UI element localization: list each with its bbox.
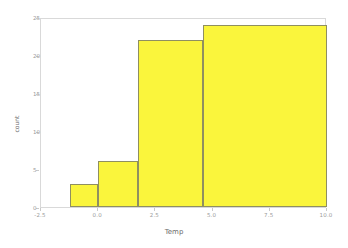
x-tick-mark — [97, 208, 98, 211]
y-axis-title: count — [13, 116, 20, 133]
x-axis-title: Temp — [0, 228, 348, 236]
x-tick-label: 0.0 — [93, 212, 102, 218]
y-tick-label: 15 — [33, 91, 40, 97]
y-tick-label: 0 — [33, 205, 37, 211]
y-tick-label: 25 — [33, 15, 40, 21]
y-tick-label: 10 — [33, 129, 40, 135]
histogram-bar — [98, 161, 138, 207]
x-tick-mark — [269, 208, 270, 211]
x-tick-label: 2.5 — [150, 212, 159, 218]
histogram-chart: -2.50.02.55.07.510.00510152025 Temp coun… — [0, 0, 348, 248]
x-tick-mark — [154, 208, 155, 211]
x-tick-label: -2.5 — [34, 212, 46, 218]
x-tick-mark — [212, 208, 213, 211]
histogram-bar — [70, 184, 99, 207]
x-tick-label: 10.0 — [319, 212, 332, 218]
x-tick-mark — [326, 208, 327, 211]
y-tick-label: 20 — [33, 53, 40, 59]
x-tick-mark — [40, 208, 41, 211]
bars-layer — [41, 19, 325, 207]
x-tick-label: 5.0 — [207, 212, 216, 218]
x-tick-label: 7.5 — [264, 212, 273, 218]
histogram-bar — [138, 40, 203, 207]
y-tick-label: 5 — [33, 167, 37, 173]
plot-area — [40, 18, 326, 208]
histogram-bar — [203, 25, 327, 207]
